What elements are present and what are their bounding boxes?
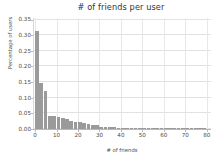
bar: [35, 31, 39, 129]
x-axis-label: # of friends: [32, 147, 212, 153]
bar-series: [33, 18, 211, 129]
plot-area: [33, 18, 211, 129]
y-tick-label: 0.15: [5, 79, 31, 85]
x-tick-label: 0: [25, 132, 45, 138]
bar: [65, 119, 69, 129]
x-tick-label: 50: [132, 132, 152, 138]
bar: [61, 118, 65, 129]
y-tick-mark: [30, 35, 33, 36]
bar: [74, 122, 78, 130]
y-tick-mark: [30, 82, 33, 83]
x-tick-mark: [78, 129, 79, 132]
x-tick-mark: [57, 129, 58, 132]
x-tick-mark: [35, 129, 36, 132]
x-tick-mark: [142, 129, 143, 132]
x-tick-label: 10: [47, 132, 67, 138]
y-tick-label: 0.25: [5, 48, 31, 54]
chart-figure: # of friends per user Percentage of user…: [0, 0, 216, 161]
y-tick-label: 0.30: [5, 32, 31, 38]
y-tick-mark: [30, 66, 33, 67]
y-axis-line: [33, 18, 34, 129]
x-tick-label: 60: [154, 132, 174, 138]
bar: [48, 116, 52, 129]
y-tick-mark: [30, 51, 33, 52]
bar: [57, 117, 61, 129]
x-tick-label: 40: [111, 132, 131, 138]
y-tick-mark: [30, 113, 33, 114]
x-tick-mark: [185, 129, 186, 132]
y-tick-label: 0.10: [5, 95, 31, 101]
bar: [39, 83, 43, 129]
x-tick-label: 20: [68, 132, 88, 138]
y-tick-mark: [30, 129, 33, 130]
x-tick-mark: [121, 129, 122, 132]
x-tick-label: 30: [89, 132, 109, 138]
bar: [44, 91, 48, 129]
x-tick-label: 70: [175, 132, 195, 138]
y-tick-mark: [30, 98, 33, 99]
x-axis-tick-labels: 01020304050607080: [0, 132, 216, 144]
chart-title: # of friends per user: [30, 2, 212, 12]
x-tick-mark: [99, 129, 100, 132]
x-tick-label: 80: [197, 132, 216, 138]
x-tick-mark: [164, 129, 165, 132]
y-tick-mark: [30, 20, 33, 21]
y-tick-label: 0.20: [5, 63, 31, 69]
y-tick-label: 0.35: [5, 16, 31, 22]
bar: [69, 121, 73, 129]
y-tick-label: 0.00: [5, 126, 31, 132]
x-tick-mark: [207, 129, 208, 132]
bar: [52, 116, 56, 129]
y-tick-label: 0.05: [5, 110, 31, 116]
